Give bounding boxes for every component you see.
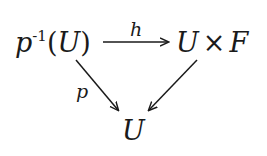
arrow-label-h: h [130,20,142,39]
product-left: U [176,27,199,58]
product-right: F [229,27,248,58]
preimage-paren-close: ) [80,27,91,58]
node-preimage: p-1(U) [15,29,91,56]
arrow-right-diagonal [149,60,197,110]
preimage-base: p [15,27,32,58]
product-times: × [203,27,226,58]
preimage-superscript: -1 [32,27,47,45]
preimage-arg: U [57,27,80,58]
commutative-diagram: p-1(U) h U×F p U [0,0,267,156]
arrow-label-p: p [76,82,88,101]
node-product: U×F [176,29,248,56]
node-base-U: U [122,117,145,144]
preimage-paren-open: ( [47,27,58,58]
